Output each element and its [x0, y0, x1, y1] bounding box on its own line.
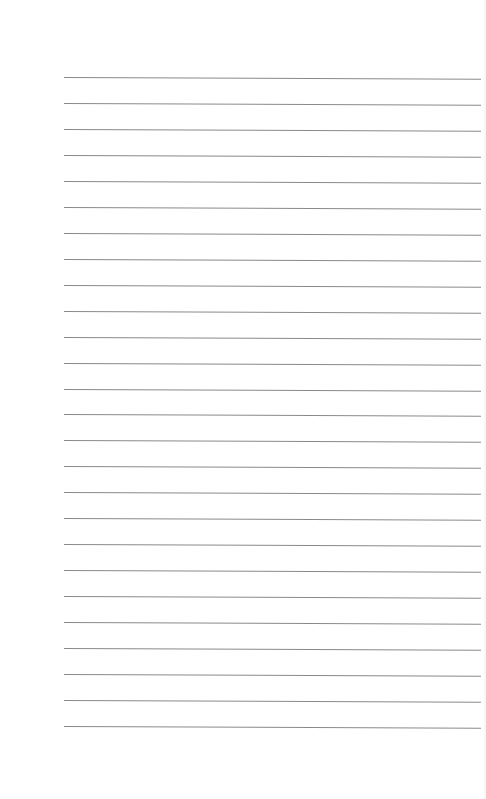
ruled-line: [64, 233, 481, 236]
ruled-line: [64, 181, 481, 184]
ruled-line: [64, 466, 481, 469]
ruled-line: [64, 363, 481, 366]
ruled-line: [64, 518, 481, 521]
ruled-line: [64, 103, 481, 106]
ruled-line: [64, 155, 481, 158]
ruled-line: [64, 492, 481, 495]
ruled-line: [64, 285, 481, 288]
ruled-line: [64, 311, 481, 314]
ruled-line: [64, 700, 481, 703]
ruled-line: [64, 259, 481, 262]
ruled-line: [64, 674, 481, 677]
ruled-line: [64, 648, 481, 651]
ruled-line: [64, 129, 481, 132]
ruled-line: [64, 726, 481, 729]
ruled-line: [64, 570, 481, 573]
ruled-line: [64, 207, 481, 210]
lined-paper-page: [0, 0, 486, 799]
ruled-line: [64, 622, 481, 625]
ruled-line: [64, 596, 481, 599]
ruled-line: [64, 337, 481, 340]
ruled-line: [64, 389, 481, 392]
ruled-line: [64, 414, 481, 417]
ruled-line: [64, 440, 481, 443]
ruled-line: [64, 77, 481, 80]
ruled-line: [64, 544, 481, 547]
